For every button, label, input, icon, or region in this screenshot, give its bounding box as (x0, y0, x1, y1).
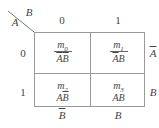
corner-col-var: B (24, 6, 34, 18)
kmap-cell-m0: m0 AB (35, 33, 90, 73)
kmap-grid: m0 AB m1 AB m2 AB m3 AB (34, 32, 145, 107)
bottom-label-0: B (56, 109, 68, 121)
kmap-cell-m1: m1 AB (91, 33, 146, 73)
row-header-0: 0 (18, 47, 28, 59)
right-label-0: A (148, 47, 158, 59)
right-label-1: B (148, 86, 158, 98)
row-header-1: 1 (18, 86, 28, 98)
corner-row-var: A (10, 16, 20, 28)
col-header-1: 1 (112, 14, 124, 26)
kmap-cell-m3: m3 AB (91, 74, 146, 114)
col-header-0: 0 (56, 14, 68, 26)
kmap-cell-m2: m2 AB (35, 74, 90, 114)
bottom-label-1: B (112, 109, 124, 121)
